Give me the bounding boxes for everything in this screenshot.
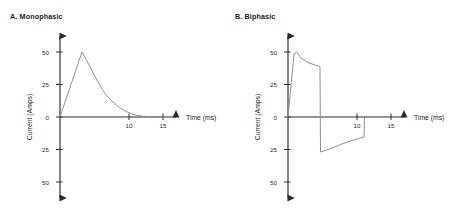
panel-a-ylabel-25pos: 25 [42,81,49,88]
panel-monophasic: A. Monophasic [0,0,230,220]
panel-b-ylabel-50pos: 50 [270,49,277,56]
panel-b-ylabel-25neg: 25 [270,146,277,153]
panel-b-ylabel-25pos: 25 [270,81,277,88]
biphasic-waveform-trace [288,52,365,152]
panel-b-y-axis-title: Current (Amps) [254,94,262,140]
panel-a-xlabel-10: 10 [126,122,133,129]
panel-a-ylabel-25neg: 25 [42,146,49,153]
panel-biphasic: B. Biphasic [230,0,460,220]
panel-b-ylabel-0: 0 [274,114,278,121]
panel-b-xlabel-10: 10 [354,122,361,129]
waveform-figure: A. Monophasic [0,0,460,220]
panel-b-xlabel-15: 15 [388,122,395,129]
panel-a-ylabel-50pos: 50 [42,49,49,56]
panel-b-ylabel-50neg: 50 [270,179,277,186]
panel-a-x-axis-title: Time (ms) [186,114,216,122]
panel-a-plot: 50 25 0 25 50 10 15 Time (ms) Current (A… [0,0,230,220]
monophasic-waveform-trace [60,52,163,117]
panel-b-x-axis-title: Time (ms) [414,114,444,122]
panel-a-xlabel-15: 15 [160,122,167,129]
panel-a-ylabel-0: 0 [46,114,50,121]
panel-a-ylabel-50neg: 50 [42,179,49,186]
panel-a-y-axis-title: Current (Amps) [26,94,34,140]
panel-b-plot: 50 25 0 25 50 10 15 Time (ms) Current (A… [230,0,460,220]
